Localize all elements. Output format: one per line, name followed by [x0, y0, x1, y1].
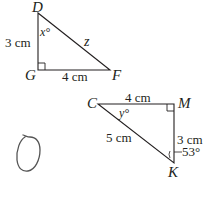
hypotenuse-ck-label: 5 cm: [106, 130, 132, 145]
figure-canvas: D G F 3 cm 4 cm z x° C M K 4 cm 3 cm 5 c…: [0, 0, 207, 199]
angle-53-label: 53°: [182, 144, 200, 159]
side-cm-label: 4 cm: [125, 90, 151, 105]
triangle-dgf: D G F 3 cm 4 cm z x°: [5, 0, 122, 84]
vertex-c-label: C: [87, 95, 98, 111]
right-angle-marker-m: [167, 104, 174, 111]
vertex-d-label: D: [31, 0, 43, 15]
side-gf-label: 4 cm: [62, 69, 88, 84]
angle-y-label: y°: [118, 106, 129, 120]
triangle-cmk: C M K 4 cm 3 cm 5 cm y° 53°: [87, 90, 203, 180]
triangle-dgf-outline: [38, 13, 110, 70]
hypotenuse-z-label: z: [83, 34, 90, 49]
angle-x-label: x°: [39, 25, 50, 39]
side-dg-label: 3 cm: [5, 35, 31, 50]
vertex-m-label: M: [177, 95, 192, 111]
hand-drawn-loop: [17, 135, 40, 171]
angle-arc-k: [169, 151, 170, 158]
right-angle-marker-g: [38, 63, 45, 70]
vertex-g-label: G: [25, 67, 36, 83]
vertex-f-label: F: [111, 67, 122, 83]
vertex-k-label: K: [167, 164, 179, 180]
